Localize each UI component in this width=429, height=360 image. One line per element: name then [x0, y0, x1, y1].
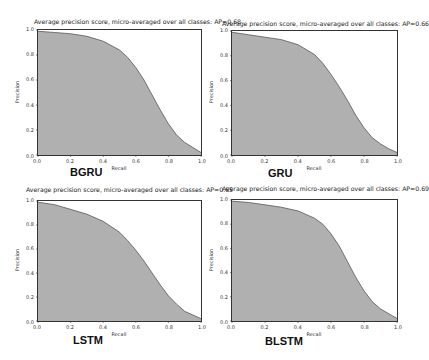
pr-curve-fill: [232, 32, 397, 155]
x-tick-label: 0.4: [290, 324, 306, 330]
chart-title-bgru: Average precision score, micro-averaged …: [34, 18, 241, 25]
y-tick-label: 0.2: [20, 294, 34, 300]
x-tick-label: 0.2: [256, 158, 272, 164]
y-tick-label: 1.0: [20, 197, 34, 203]
chart-title-lstm: Average precision score, micro-averaged …: [26, 186, 233, 193]
y-tick-label: 0.4: [20, 270, 34, 276]
x-tick-label: 0.0: [29, 324, 45, 330]
x-tick-label: 0.6: [128, 324, 144, 330]
y-axis-label: Precision: [14, 249, 20, 271]
x-tick-label: 1.0: [390, 158, 406, 164]
x-tick-label: 0.0: [29, 158, 45, 164]
x-tick-label: 0.8: [161, 324, 177, 330]
plot-area-lstm: [37, 200, 202, 322]
y-tick-label: 0.8: [214, 52, 228, 58]
x-tick-label: 0.4: [290, 158, 306, 164]
plot-area-blstm: [231, 199, 398, 322]
y-tick-label: 0.4: [214, 102, 228, 108]
y-tick-label: 1.0: [214, 27, 228, 33]
x-tick-label: 1.0: [194, 158, 210, 164]
pr-curve-fill: [232, 201, 397, 321]
x-tick-label: 1.0: [390, 324, 406, 330]
y-tick-label: 1.0: [214, 196, 228, 202]
x-tick-label: 1.0: [194, 324, 210, 330]
x-tick-label: 0.0: [223, 324, 239, 330]
y-tick-label: 0.8: [214, 220, 228, 226]
x-tick-label: 0.8: [357, 158, 373, 164]
x-tick-label: 0.4: [95, 158, 111, 164]
x-tick-label: 0.2: [256, 324, 272, 330]
x-tick-label: 0.8: [161, 158, 177, 164]
x-tick-label: 0.2: [62, 324, 78, 330]
y-tick-label: 0.2: [214, 294, 228, 300]
model-label-blstm: BLSTM: [265, 335, 303, 347]
x-axis-label: Recall: [112, 165, 127, 171]
x-axis-label: Recall: [307, 331, 322, 337]
x-axis-label: Recall: [112, 331, 127, 337]
x-tick-label: 0.0: [223, 158, 239, 164]
y-tick-label: 0.6: [214, 77, 228, 83]
chart-title-blstm: Average precision score, micro-averaged …: [222, 185, 429, 192]
model-label-bgru: BGRU: [70, 166, 102, 178]
x-tick-label: 0.8: [357, 324, 373, 330]
x-tick-label: 0.6: [323, 158, 339, 164]
y-tick-label: 1.0: [20, 26, 34, 32]
x-tick-label: 0.2: [62, 158, 78, 164]
y-tick-label: 0.6: [214, 245, 228, 251]
plot-area-bgru: [37, 29, 202, 156]
x-axis-label: Recall: [307, 165, 322, 171]
pr-curve-fill: [38, 202, 201, 321]
model-label-lstm: LSTM: [73, 334, 103, 346]
chart-title-gru: Average precision score, micro-averaged …: [222, 20, 429, 27]
y-axis-label: Precision: [208, 248, 214, 270]
y-tick-label: 0.4: [20, 102, 34, 108]
y-tick-label: 0.8: [20, 51, 34, 57]
y-tick-label: 0.2: [20, 127, 34, 133]
y-axis-label: Precision: [208, 81, 214, 103]
y-tick-label: 0.8: [20, 221, 34, 227]
model-label-gru: GRU: [268, 167, 292, 179]
x-tick-label: 0.6: [323, 324, 339, 330]
x-tick-label: 0.4: [95, 324, 111, 330]
y-tick-label: 0.6: [20, 76, 34, 82]
y-tick-label: 0.2: [214, 127, 228, 133]
y-axis-label: Precision: [14, 80, 20, 102]
plot-area-gru: [231, 30, 398, 156]
y-tick-label: 0.4: [214, 269, 228, 275]
y-tick-label: 0.6: [20, 245, 34, 251]
x-tick-label: 0.6: [128, 158, 144, 164]
